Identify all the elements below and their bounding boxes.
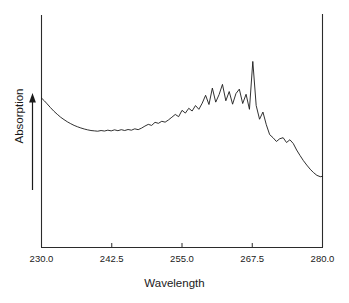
absorption-spectrum-figure: 230.0242.5255.0267.5280.0 Wavelength Abs…	[0, 0, 349, 303]
y-axis-title: Absorption	[13, 76, 25, 156]
x-axis-title: Wavelength	[0, 277, 349, 289]
x-tick-label: 255.0	[152, 253, 212, 264]
x-tick-label: 242.5	[82, 253, 142, 264]
x-tick-label: 230.0	[12, 253, 72, 264]
x-tick-label: 280.0	[293, 253, 349, 264]
x-tick-label: 267.5	[222, 253, 282, 264]
